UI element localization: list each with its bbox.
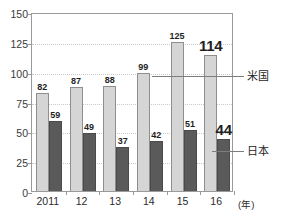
bar-us	[103, 86, 116, 191]
bar-value-label: 49	[84, 123, 94, 132]
bar-value-label: 88	[105, 76, 115, 85]
bar-slot: 59	[49, 14, 62, 191]
legend-callout-jp: 日本	[212, 146, 269, 157]
y-axis-tick-label: 75	[0, 98, 28, 109]
x-axis-tick-mark	[99, 191, 100, 195]
y-axis-tick-label: 125	[0, 39, 28, 50]
bar-chart: 0255075100125150 82598749883799421255111…	[0, 0, 283, 216]
bar-us	[36, 93, 49, 191]
bar-slot: 37	[116, 14, 129, 191]
legend-callout-us: 米国	[152, 71, 269, 82]
x-axis-tick-mark	[200, 191, 201, 195]
y-axis-tick-label: 0	[0, 188, 28, 199]
leader-line-icon	[212, 151, 244, 152]
x-axis-tick-mark	[66, 191, 67, 195]
x-axis-tick-mark	[234, 191, 235, 195]
bar-slot: 44	[217, 14, 230, 191]
bar-value-label: 125	[169, 32, 184, 41]
bar-slot: 42	[150, 14, 163, 191]
bar-slot: 99	[137, 14, 150, 191]
y-axis-tick-mark	[28, 193, 32, 194]
bar-value-label: 82	[37, 83, 47, 92]
y-axis-tick-label: 25	[0, 158, 28, 169]
bar-us	[137, 73, 150, 191]
bar-us	[171, 42, 184, 191]
x-axis-tick-label: 15	[177, 196, 189, 207]
bar-group: 8837	[103, 14, 130, 191]
x-axis-tick-label: 12	[76, 196, 88, 207]
x-axis-unit-label: (年)	[238, 197, 254, 211]
bar-value-label: 99	[138, 63, 148, 72]
bar-slot: 88	[103, 14, 116, 191]
bar-slot: 125	[171, 14, 184, 191]
bar-group: 9942	[136, 14, 163, 191]
x-axis-tick-label: 13	[109, 196, 121, 207]
bar-groups: 82598749883799421255111444	[32, 14, 232, 191]
bar-us	[70, 87, 83, 191]
bar-group: 11444	[204, 14, 231, 191]
bar-value-label: 51	[185, 120, 195, 129]
y-axis-tick-label: 100	[0, 68, 28, 79]
bar-value-label: 59	[50, 111, 60, 120]
x-axis-tick-label: 2011	[37, 196, 60, 207]
y-axis-tick-label: 150	[0, 9, 28, 20]
bar-jp	[150, 141, 163, 191]
y-axis-tick-label: 50	[0, 128, 28, 139]
bar-slot: 87	[70, 14, 83, 191]
bar-slot: 82	[36, 14, 49, 191]
bar-value-label: 44	[216, 122, 232, 137]
bar-jp	[116, 147, 129, 191]
bar-slot: 49	[83, 14, 96, 191]
bar-slot: 51	[184, 14, 197, 191]
bar-jp	[83, 133, 96, 191]
leader-line-icon	[152, 76, 244, 77]
x-axis-tick-label: 16	[210, 196, 222, 207]
legend-label-us: 米国	[247, 71, 269, 82]
legend-label-jp: 日本	[247, 146, 269, 157]
x-axis-tick-label: 14	[143, 196, 155, 207]
x-axis-labels: 20111213141516	[31, 196, 233, 214]
bar-group: 8749	[69, 14, 96, 191]
bar-jp	[184, 130, 197, 191]
bar-value-label: 37	[118, 137, 128, 146]
bar-group: 8259	[35, 14, 62, 191]
x-axis-tick-mark	[167, 191, 168, 195]
bar-group: 12551	[170, 14, 197, 191]
plot-area: 0255075100125150 82598749883799421255111…	[31, 13, 233, 192]
bar-jp	[49, 121, 62, 191]
x-axis-tick-mark	[133, 191, 134, 195]
bar-value-label: 87	[71, 77, 81, 86]
bar-slot: 114	[204, 14, 217, 191]
bar-value-label: 42	[151, 131, 161, 140]
